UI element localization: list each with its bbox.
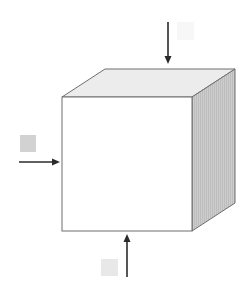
label-placeholder-left <box>20 135 36 152</box>
arrow-right-icon <box>19 159 60 166</box>
arrow-up-icon <box>124 234 131 277</box>
cube-right-face <box>192 69 235 231</box>
cube-front-face <box>62 97 192 231</box>
cube-diagram <box>0 0 246 291</box>
label-placeholder-top <box>177 22 194 40</box>
arrow-down-icon <box>165 22 172 64</box>
diagram-canvas <box>0 0 246 291</box>
label-placeholder-bottom <box>101 259 118 276</box>
